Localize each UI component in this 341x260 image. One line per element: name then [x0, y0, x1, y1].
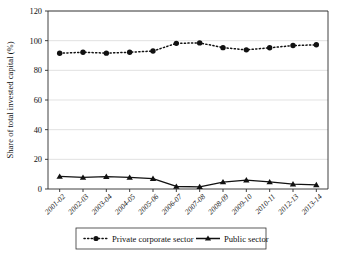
data-point-marker: [104, 50, 109, 55]
data-point-marker: [220, 45, 225, 50]
y-axis-title: Share of total invested capital (%): [5, 41, 15, 158]
y-tick-label: 120: [29, 7, 42, 16]
data-point-marker: [174, 41, 179, 46]
y-tick-label: 0: [38, 185, 42, 194]
y-tick-label: 80: [34, 66, 42, 75]
line-chart-svg: 020406080100120 2001-022002-032003-04200…: [0, 0, 341, 260]
y-tick-label: 60: [34, 96, 42, 105]
data-point-marker: [290, 43, 295, 48]
y-tick-label: 20: [34, 155, 42, 164]
data-point-marker: [244, 47, 249, 52]
data-point-marker: [150, 48, 155, 53]
data-point-marker: [127, 50, 132, 55]
legend-marker-circle-icon: [93, 236, 98, 241]
legend-label-private: Private corporate sector: [112, 234, 194, 244]
y-tick-label: 100: [29, 37, 42, 46]
data-point-marker: [80, 50, 85, 55]
legend-label-public: Public sector: [224, 234, 269, 244]
chart-legend: Private corporate sector Public sector: [76, 228, 269, 249]
data-point-marker: [314, 42, 319, 47]
y-tick-label: 40: [34, 126, 42, 135]
data-point-marker: [197, 40, 202, 45]
data-point-marker: [267, 45, 272, 50]
chart-figure: 020406080100120 2001-022002-032003-04200…: [0, 0, 341, 260]
data-point-marker: [57, 51, 62, 56]
